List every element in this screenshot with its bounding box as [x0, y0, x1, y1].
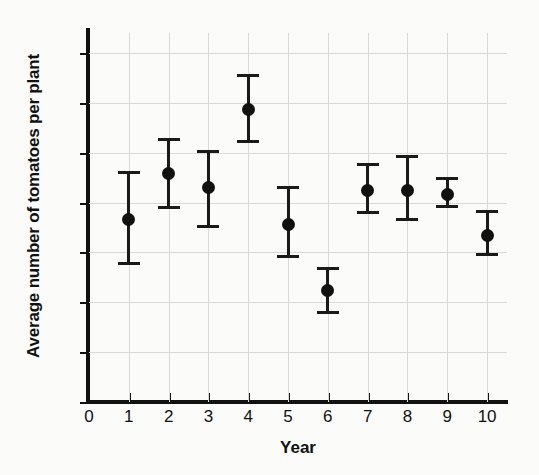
error-bar-cap-upper: [118, 171, 140, 174]
error-bar-cap-upper: [476, 210, 498, 213]
x-tick-label: 9: [427, 408, 467, 425]
data-point: [441, 188, 454, 201]
gridline-horizontal: [89, 203, 507, 204]
error-bar-cap-upper: [317, 267, 339, 270]
y-tick-mark: [80, 352, 87, 354]
y-tick-mark: [80, 153, 87, 155]
y-tick-mark: [80, 252, 87, 254]
y-tick-mark: [80, 302, 87, 304]
gridline-horizontal: [89, 302, 507, 303]
error-bar-cap-upper: [197, 150, 219, 153]
error-bar-cap-upper: [158, 138, 180, 141]
error-bar-cap-lower: [396, 218, 418, 221]
gridline-vertical: [169, 33, 170, 402]
gridline-horizontal: [89, 352, 507, 353]
error-bar-cap-upper: [277, 186, 299, 189]
gridline-horizontal: [89, 103, 507, 104]
error-bar-cap-lower: [197, 225, 219, 228]
gridline-vertical: [368, 33, 369, 402]
data-point: [122, 213, 135, 226]
data-point: [361, 184, 374, 197]
x-tick-label: 7: [348, 408, 388, 425]
error-bar-cap-lower: [118, 262, 140, 265]
data-point: [202, 181, 215, 194]
error-bar-cap-lower: [317, 311, 339, 314]
chart-figure: Average number of tomatoes per plant Yea…: [0, 0, 539, 475]
x-tick-label: 0: [69, 408, 109, 425]
error-bar-cap-lower: [476, 253, 498, 256]
error-bar-cap-lower: [277, 255, 299, 258]
x-tick-label: 4: [228, 408, 268, 425]
error-bar-cap-lower: [436, 205, 458, 208]
y-axis-title: Average number of tomatoes per plant: [24, 6, 44, 406]
error-bar-cap-lower: [237, 140, 259, 143]
gridline-vertical: [447, 33, 448, 402]
x-tick-label: 2: [149, 408, 189, 425]
error-bar-cap-upper: [357, 163, 379, 166]
x-tick-label: 1: [109, 408, 149, 425]
error-bar-cap-lower: [158, 206, 180, 209]
x-tick-label: 8: [387, 408, 427, 425]
error-bar-cap-lower: [357, 211, 379, 214]
data-point: [242, 103, 255, 116]
data-point: [321, 284, 334, 297]
x-tick-label: 10: [467, 408, 507, 425]
data-point: [481, 229, 494, 242]
error-bar-cap-upper: [237, 74, 259, 77]
gridline-horizontal: [89, 252, 507, 253]
data-point: [282, 218, 295, 231]
x-tick-label: 6: [308, 408, 348, 425]
x-axis-title: Year: [89, 438, 507, 458]
x-tick-label: 5: [268, 408, 308, 425]
y-tick-mark: [80, 53, 87, 55]
error-bar-cap-upper: [436, 177, 458, 180]
gridline-vertical: [328, 33, 329, 402]
x-tick-label: 3: [188, 408, 228, 425]
y-tick-mark: [80, 402, 87, 404]
y-tick-mark: [80, 103, 87, 105]
gridline-horizontal: [89, 153, 507, 154]
plot-area: [89, 33, 507, 402]
y-tick-mark: [80, 203, 87, 205]
gridline-horizontal: [89, 53, 507, 54]
data-point: [162, 167, 175, 180]
error-bar-cap-upper: [396, 155, 418, 158]
data-point: [401, 184, 414, 197]
